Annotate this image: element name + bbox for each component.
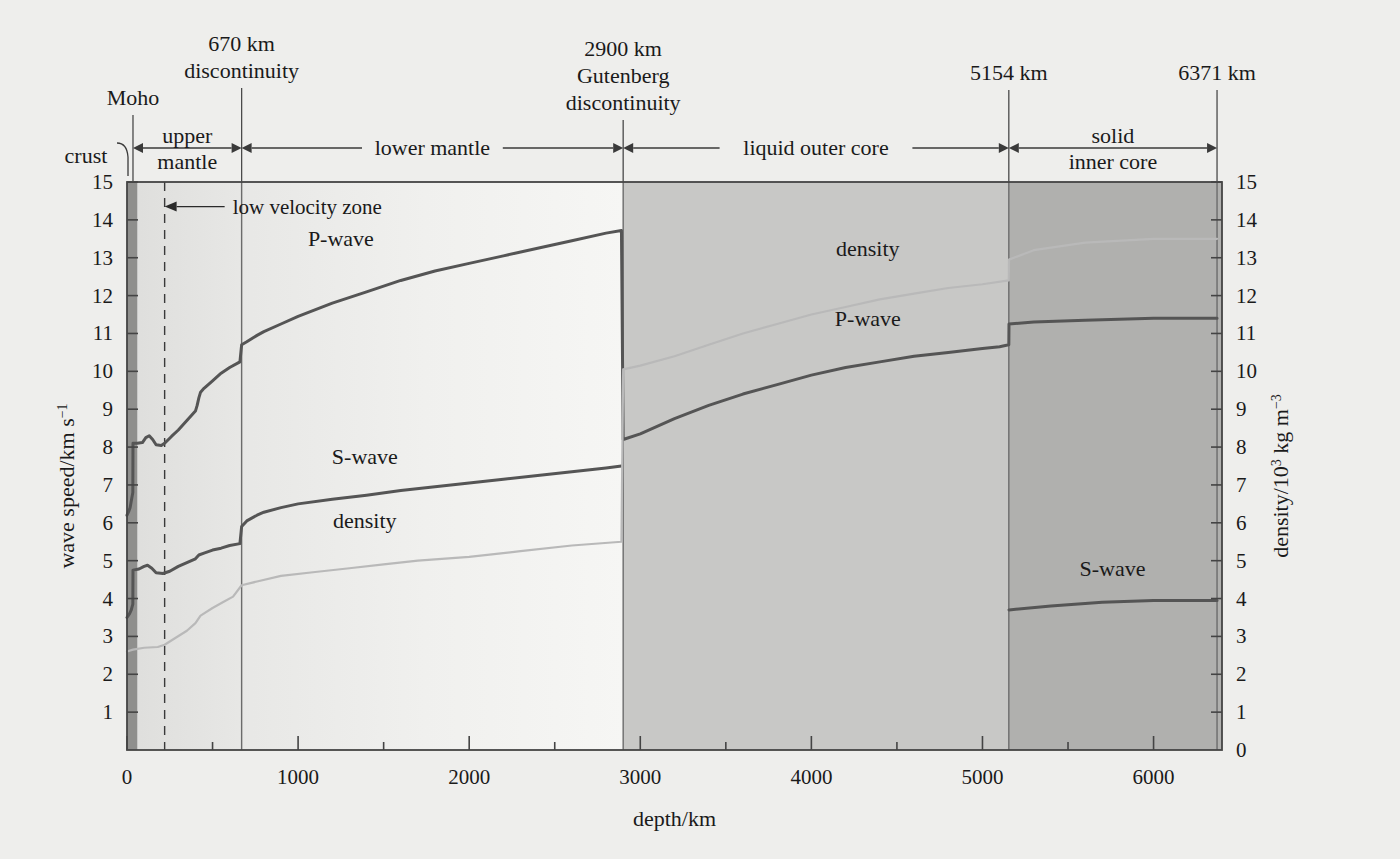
y-left-tick-label-10: 10 [92,359,113,383]
curve-label-density-outer-core: density [836,236,900,261]
region-label-solid-inner-core-1: inner core [1069,149,1158,174]
y-left-tick-label-6: 6 [103,511,114,535]
y-right-tick-label-15: 15 [1236,170,1257,194]
boundary-label-gutenberg-discontinuity-0: 2900 km [584,36,662,61]
boundary-label-670km-discontinuity-0: 670 km [208,31,275,56]
x-tick-label-2000: 2000 [448,765,490,789]
y-right-tick-label-4: 4 [1236,587,1247,611]
y-right-tick-label-3: 3 [1236,624,1247,648]
earth-structure-chart: 1234567891011121314150123456789101112131… [0,0,1400,859]
y-right-tick-label-11: 11 [1236,321,1256,345]
y-right-tick-label-5: 5 [1236,549,1247,573]
y-left-tick-label-9: 9 [103,397,114,421]
y-right-tick-label-10: 10 [1236,359,1257,383]
region-label-upper-mantle-0: upper [162,123,213,148]
boundary-label-inner-core-boundary-0: 5154 km [970,60,1048,85]
x-tick-label-3000: 3000 [619,765,661,789]
low-velocity-zone-label: low velocity zone [233,195,382,219]
curve-label-p-wave-mantle: P-wave [308,226,374,251]
y-right-tick-label-7: 7 [1236,473,1247,497]
y-right-tick-label-2: 2 [1236,662,1247,686]
y-right-axis-title: density/103 kg m−3 [1268,394,1293,558]
figure-page: 1234567891011121314150123456789101112131… [0,0,1400,859]
y-left-axis-title: wave speed/km s−1 [54,403,79,568]
region-label-crust-0: crust [65,143,108,168]
y-left-tick-label-2: 2 [103,662,114,686]
region-fill-outer-core [623,182,1009,750]
y-left-tick-label-13: 13 [92,246,113,270]
x-tick-label-5000: 5000 [961,765,1003,789]
plot-layer [127,182,1222,750]
region-label-upper-mantle-1: mantle [157,149,217,174]
y-right-tick-label-1: 1 [1236,700,1247,724]
y-left-axis-title-group: wave speed/km s−1 [54,403,79,568]
boundary-label-moho-0: Moho [107,85,160,110]
x-tick-label-6000: 6000 [1133,765,1175,789]
x-tick-label-1000: 1000 [277,765,319,789]
curve-label-p-wave-outer-core: P-wave [835,306,901,331]
y-left-tick-label-5: 5 [103,549,114,573]
region-label-lower-mantle-0: lower mantle [375,135,490,160]
region-label-solid-inner-core-0: solid [1092,123,1135,148]
y-right-axis-title-group: density/103 kg m−3 [1268,394,1293,558]
y-left-tick-label-3: 3 [103,624,114,648]
boundary-label-gutenberg-discontinuity-1: Gutenberg [577,63,669,88]
curve-label-density-mantle: density [333,508,397,533]
y-left-tick-label-7: 7 [103,473,114,497]
region-fill-inner-core [1009,182,1217,750]
y-right-tick-label-6: 6 [1236,511,1247,535]
curve-label-s-wave-mantle: S-wave [332,444,398,469]
y-right-tick-label-13: 13 [1236,246,1257,270]
boundary-label-670km-discontinuity-1: discontinuity [184,58,299,83]
y-right-tick-label-8: 8 [1236,435,1247,459]
y-right-tick-label-12: 12 [1236,284,1257,308]
y-left-tick-label-12: 12 [92,284,113,308]
y-right-tick-label-0: 0 [1236,738,1247,762]
y-left-tick-label-4: 4 [103,587,114,611]
y-left-tick-label-15: 15 [92,170,113,194]
region-label-liquid-outer-core-0: liquid outer core [743,135,888,160]
y-right-tick-label-14: 14 [1236,208,1258,232]
boundary-label-earth-centre-0: 6371 km [1178,60,1256,85]
y-left-tick-label-14: 14 [92,208,114,232]
y-left-tick-label-11: 11 [93,321,113,345]
curve-label-s-wave-inner-core: S-wave [1080,556,1146,581]
y-right-tick-label-9: 9 [1236,397,1247,421]
x-axis-title: depth/km [633,806,716,831]
x-tick-label-0: 0 [122,765,133,789]
y-left-tick-label-8: 8 [103,435,114,459]
y-left-tick-label-1: 1 [103,700,114,724]
boundary-label-gutenberg-discontinuity-2: discontinuity [566,90,681,115]
x-tick-label-4000: 4000 [790,765,832,789]
